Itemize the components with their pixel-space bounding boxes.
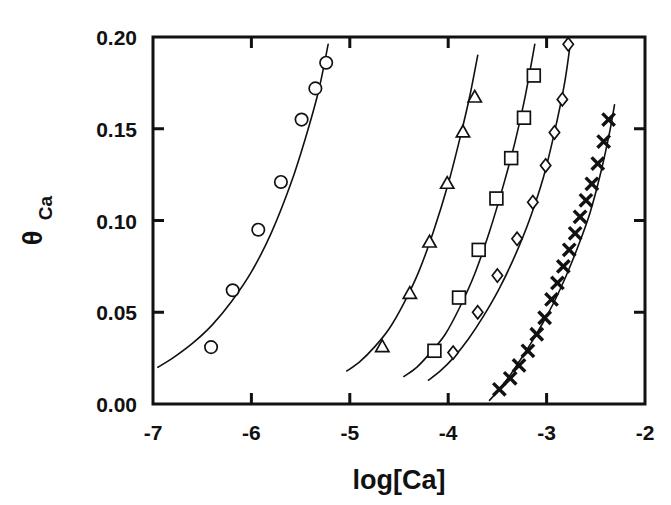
y-tick-label: 0.20 — [96, 26, 137, 49]
data-point-triangle — [423, 235, 436, 247]
data-point-cross — [538, 312, 550, 324]
fit-curve-series-5 — [490, 105, 615, 400]
y-tick-label: 0.00 — [96, 393, 137, 416]
data-point-cross — [580, 194, 592, 206]
fit-curve-series-3 — [404, 44, 535, 376]
data-point-square — [505, 152, 518, 165]
data-point-square — [490, 192, 503, 205]
data-point-diamond — [540, 159, 550, 172]
chart-canvas: -7-6-5-4-3-2 0.000.050.100.150.20 log[Ca… — [0, 0, 671, 505]
fit-curve-series-2 — [347, 55, 478, 371]
data-markers-group — [205, 38, 615, 396]
x-axis-title: log[Ca] — [353, 465, 446, 495]
data-point-diamond — [492, 269, 502, 282]
data-point-cross — [574, 211, 586, 223]
series-triangle — [376, 90, 482, 351]
figure-root: -7-6-5-4-3-2 0.000.050.100.150.20 log[Ca… — [0, 0, 671, 505]
y-axis-ticks — [153, 129, 645, 313]
data-point-circle — [309, 82, 321, 94]
data-point-square — [453, 291, 466, 304]
y-axis-title: θ Ca — [18, 195, 56, 245]
data-point-triangle — [441, 177, 454, 189]
data-point-cross — [557, 260, 569, 272]
fit-curve-series-4 — [429, 44, 571, 380]
data-point-cross — [569, 227, 581, 239]
y-axis-title-subscript: Ca — [35, 195, 56, 220]
y-axis-title-symbol: θ — [18, 231, 48, 246]
data-point-triangle — [456, 125, 469, 137]
x-tick-label: -6 — [242, 421, 261, 444]
data-point-circle — [205, 341, 217, 353]
data-point-diamond — [448, 346, 458, 359]
data-point-cross — [531, 328, 543, 340]
x-tick-label: -7 — [144, 421, 163, 444]
data-point-cross — [551, 277, 563, 289]
data-point-cross — [586, 178, 598, 190]
data-point-square — [518, 111, 531, 124]
x-tick-label: -5 — [340, 421, 359, 444]
data-point-cross — [493, 383, 505, 395]
data-point-diamond — [563, 38, 573, 51]
y-tick-label: 0.10 — [96, 210, 137, 233]
data-point-square — [527, 69, 540, 82]
data-point-cross — [563, 244, 575, 256]
x-tick-label: -3 — [537, 421, 556, 444]
data-point-square — [472, 243, 485, 256]
y-tick-label: 0.05 — [96, 301, 137, 324]
x-tick-label: -4 — [439, 421, 458, 444]
data-point-cross — [522, 345, 534, 357]
fit-curve-series-1 — [158, 44, 328, 367]
data-point-circle — [275, 176, 287, 188]
series-circle — [205, 56, 333, 353]
data-point-diamond — [557, 93, 567, 106]
data-point-triangle — [376, 340, 389, 352]
data-point-circle — [227, 284, 239, 296]
data-point-diamond — [473, 306, 483, 319]
series-diamond — [448, 38, 573, 359]
data-point-triangle — [403, 287, 416, 299]
y-axis-tick-labels: 0.000.050.100.150.20 — [96, 26, 137, 416]
data-point-circle — [320, 56, 332, 68]
y-tick-label: 0.15 — [96, 118, 137, 141]
data-point-circle — [295, 113, 307, 125]
x-tick-label: -2 — [636, 421, 655, 444]
x-axis-ticks — [251, 37, 546, 404]
data-point-cross — [602, 113, 614, 125]
plot-frame — [153, 37, 645, 404]
data-point-square — [428, 344, 441, 357]
x-axis-tick-labels: -7-6-5-4-3-2 — [144, 421, 655, 444]
data-point-circle — [252, 223, 264, 235]
data-point-diamond — [549, 126, 559, 139]
